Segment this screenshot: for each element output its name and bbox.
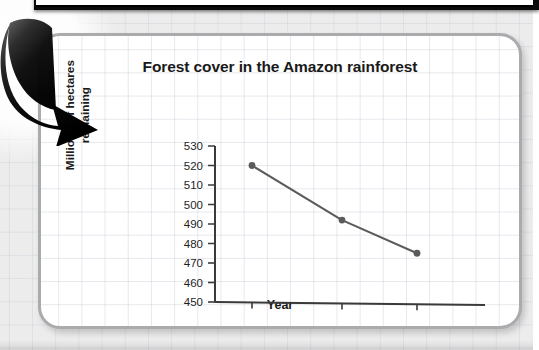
chart-panel: Forest cover in the Amazon rainforest Mi… bbox=[38, 33, 522, 329]
line-chart-svg: 530520510500490480470460450 199020002005 bbox=[137, 106, 487, 311]
x-axis-line bbox=[215, 302, 485, 305]
y-tick-label: 500 bbox=[184, 199, 203, 211]
y-tick-label: 480 bbox=[184, 238, 203, 250]
chart-title: Forest cover in the Amazon rainforest bbox=[41, 58, 519, 76]
data-point-marker bbox=[414, 250, 421, 257]
data-point-marker bbox=[339, 217, 346, 224]
y-tick-label: 470 bbox=[184, 257, 203, 269]
y-axis-title-line-1: Millions of hectares bbox=[63, 33, 78, 200]
page-bottom-shadow bbox=[0, 340, 533, 350]
y-axis-title-line-2: remaining bbox=[78, 33, 93, 200]
y-tick-label: 520 bbox=[184, 160, 203, 172]
y-tick-label: 450 bbox=[184, 296, 203, 308]
y-tick-label: 460 bbox=[184, 277, 203, 289]
data-point-marker bbox=[249, 162, 256, 169]
plot-area: 530520510500490480470460450 199020002005 bbox=[137, 106, 487, 311]
y-tick-label: 490 bbox=[184, 218, 203, 230]
series-line-forest-cover bbox=[252, 166, 417, 254]
top-frame-inner bbox=[36, 0, 533, 7]
y-tick-label: 530 bbox=[184, 140, 203, 152]
y-axis-title: Millions of hectares remaining bbox=[63, 33, 93, 200]
y-axis-ticks: 530520510500490480470460450 bbox=[184, 140, 215, 308]
y-tick-label: 510 bbox=[184, 179, 203, 191]
